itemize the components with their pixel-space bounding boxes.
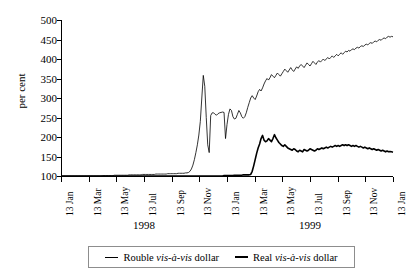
- y-tick-label: 400: [29, 54, 57, 64]
- y-tick-label: 100: [29, 171, 57, 181]
- y-tick-mark: [57, 98, 61, 99]
- y-tick-mark: [57, 118, 61, 119]
- series-line-rouble: [61, 36, 393, 176]
- y-axis-title: per cent: [15, 56, 27, 126]
- x-tick-label: 13 May: [286, 187, 296, 216]
- legend-swatch-real-icon: [235, 256, 248, 258]
- y-tick-mark: [57, 157, 61, 158]
- series-line-real: [61, 135, 393, 176]
- chart-container: per cent 500450400350300250200150100 13 …: [0, 0, 414, 279]
- legend-label-real: Real vis-à-vis dollar: [253, 252, 338, 263]
- x-tick-label: 13 Nov: [369, 188, 379, 216]
- y-tick-label: 300: [29, 93, 57, 103]
- y-tick-label: 200: [29, 132, 57, 142]
- legend-swatch-rouble-icon: [105, 257, 118, 258]
- x-tick-label: 13 Mar: [259, 188, 269, 216]
- y-tick-label: 250: [29, 113, 57, 123]
- y-tick-mark: [57, 79, 61, 80]
- x-tick-label: 13 Sep: [176, 190, 186, 216]
- x-tick-label: 13 Jan: [231, 191, 241, 216]
- y-tick-label: 500: [29, 15, 57, 25]
- x-tick-label: 13 Jul: [314, 193, 324, 216]
- legend-item-rouble: Rouble vis-à-vis dollar: [105, 252, 219, 263]
- x-tick-label: 13 Jul: [148, 193, 158, 216]
- legend-label-rouble: Rouble vis-à-vis dollar: [123, 252, 219, 263]
- chart-legend: Rouble vis-à-vis dollar Real vis-à-vis d…: [88, 246, 355, 268]
- legend-item-real: Real vis-à-vis dollar: [235, 252, 338, 263]
- x-tick-label: 13 Sep: [342, 190, 352, 216]
- x-tick-mark: [393, 177, 394, 182]
- x-tick-label: 13 Jan: [65, 191, 75, 216]
- plot-area: [61, 20, 393, 176]
- x-tick-label: 13 Mar: [93, 188, 103, 216]
- y-tick-mark: [57, 40, 61, 41]
- y-tick-label: 350: [29, 74, 57, 84]
- x-tick-label: 13 Nov: [203, 188, 213, 216]
- y-tick-mark: [57, 59, 61, 60]
- series-lines: [61, 20, 393, 176]
- x-axis-tick-labels: 13 Jan13 Mar13 May13 Jul13 Sep13 Nov13 J…: [61, 178, 393, 220]
- year-label-1998: 1998: [114, 219, 174, 231]
- y-tick-label: 450: [29, 35, 57, 45]
- year-label-1999: 1999: [280, 219, 340, 231]
- y-tick-label: 150: [29, 152, 57, 162]
- y-tick-mark: [57, 20, 61, 21]
- y-axis-tick-labels: 500450400350300250200150100: [28, 0, 57, 279]
- x-tick-label: 13 May: [120, 187, 130, 216]
- y-tick-mark: [57, 137, 61, 138]
- x-tick-label: 13 Jan: [397, 191, 407, 216]
